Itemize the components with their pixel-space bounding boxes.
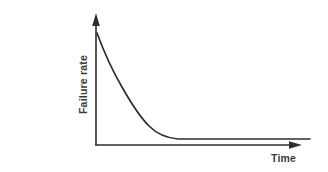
failure-rate-curve bbox=[97, 33, 310, 139]
y-axis-arrow-icon bbox=[92, 13, 100, 26]
chart-plot-area bbox=[0, 0, 328, 172]
y-axis-label: Failure rate bbox=[77, 55, 89, 114]
x-axis-label: Time bbox=[271, 152, 296, 164]
chart-figure: Failure rate Time bbox=[0, 0, 328, 172]
x-axis-arrow-icon bbox=[289, 141, 302, 149]
